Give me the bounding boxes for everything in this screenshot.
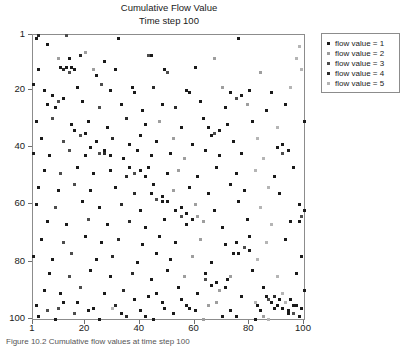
scatter-point <box>218 289 221 292</box>
scatter-point <box>158 235 161 238</box>
scatter-point <box>141 109 144 112</box>
legend-item[interactable]: flow value = 5 <box>322 78 399 88</box>
scatter-point <box>37 34 40 37</box>
scatter-point <box>172 312 175 315</box>
scatter-point <box>79 134 82 137</box>
scatter-point <box>224 106 227 109</box>
scatter-point <box>185 212 188 215</box>
scatter-point <box>300 68 303 71</box>
scatter-point <box>281 307 284 310</box>
scatter-point <box>180 126 183 129</box>
scatter-point <box>161 301 164 304</box>
scatter-point <box>218 129 221 132</box>
scatter-point <box>166 172 169 175</box>
scatter-point <box>81 100 84 103</box>
scatter-point <box>235 172 238 175</box>
scatter-point <box>125 315 128 318</box>
legend-item[interactable]: flow value = 1 <box>322 38 399 48</box>
scatter-point <box>229 183 232 186</box>
chart-title-block: Cumulative Flow Value Time step 100 <box>32 1 306 27</box>
scatter-point <box>300 255 303 258</box>
scatter-point <box>144 226 147 229</box>
scatter-point <box>144 175 147 178</box>
legend-item-label: flow value = 4 <box>335 69 384 78</box>
scatter-point <box>295 57 298 60</box>
scatter-point <box>73 183 76 186</box>
scatter-point <box>62 140 65 143</box>
scatter-point <box>76 166 79 169</box>
scatter-point <box>270 223 273 226</box>
scatter-point <box>262 157 265 160</box>
scatter-point <box>232 140 235 143</box>
figure-caption: Figure 10.2 Cumulative flow values at ti… <box>6 337 400 346</box>
scatter-point <box>133 298 136 301</box>
scatter-point <box>150 154 153 157</box>
x-axis-label: 100 <box>286 322 320 333</box>
scatter-point <box>248 89 251 92</box>
scatter-point <box>281 152 284 155</box>
scatter-point <box>259 309 262 312</box>
x-axis-label: 60 <box>177 322 211 333</box>
scatter-point <box>246 103 249 106</box>
scatter-point <box>98 318 101 321</box>
scatter-point <box>147 166 150 169</box>
scatter-point <box>95 74 98 77</box>
scatter-point <box>122 157 125 160</box>
scatter-point <box>87 309 90 312</box>
legend-item-label: flow value = 2 <box>335 49 384 58</box>
scatter-point <box>100 83 103 86</box>
scatter-point <box>194 203 197 206</box>
scatter-point <box>122 289 125 292</box>
scatter-point <box>73 68 76 71</box>
scatter-point <box>128 166 131 169</box>
scatter-points-layer <box>33 35 304 319</box>
scatter-point <box>37 68 40 71</box>
scatter-point <box>120 103 123 106</box>
scatter-point <box>98 152 101 155</box>
scatter-point <box>79 286 82 289</box>
scatter-point <box>218 154 221 157</box>
scatter-point <box>256 258 259 261</box>
scatter-point <box>163 307 166 310</box>
scatter-point <box>298 45 301 48</box>
scatter-point <box>43 169 46 172</box>
scatter-point <box>276 304 279 307</box>
scatter-point <box>262 315 265 318</box>
scatter-point <box>270 91 273 94</box>
scatter-point <box>172 137 175 140</box>
scatter-point <box>40 137 43 140</box>
scatter-point <box>180 206 183 209</box>
scatter-point <box>103 60 106 63</box>
legend-marker-icon <box>327 82 330 85</box>
scatter-point <box>111 255 114 258</box>
scatter-point <box>62 68 65 71</box>
legend-item[interactable]: flow value = 2 <box>322 48 399 58</box>
scatter-point <box>84 235 87 238</box>
scatter-point <box>185 223 188 226</box>
scatter-point <box>259 71 262 74</box>
scatter-point <box>147 295 150 298</box>
scatter-point <box>76 301 79 304</box>
scatter-point <box>196 292 199 295</box>
scatter-point <box>188 186 191 189</box>
scatter-point <box>87 218 90 221</box>
scatter-point <box>46 220 49 223</box>
legend-marker-icon <box>327 42 330 45</box>
scatter-point <box>270 301 273 304</box>
legend-marker-icon <box>327 62 330 65</box>
scatter-point <box>161 195 164 198</box>
scatter-point <box>32 152 35 155</box>
scatter-point <box>84 51 87 54</box>
scatter-point <box>43 289 46 292</box>
scatter-point <box>284 301 287 304</box>
scatter-point <box>273 307 276 310</box>
scatter-point <box>289 86 292 89</box>
legend-item[interactable]: flow value = 3 <box>322 58 399 68</box>
scatter-point <box>161 200 164 203</box>
scatter-point <box>278 192 281 195</box>
scatter-point <box>46 103 49 106</box>
scatter-point <box>259 206 262 209</box>
scatter-point <box>57 57 60 60</box>
legend-item[interactable]: flow value = 4 <box>322 68 399 78</box>
scatter-point <box>289 298 292 301</box>
